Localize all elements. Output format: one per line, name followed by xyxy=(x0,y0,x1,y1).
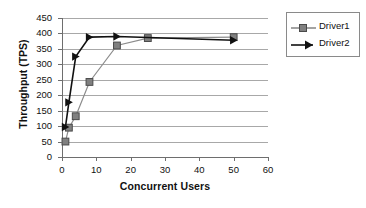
plot-area xyxy=(62,18,268,157)
x-tick-label: 30 xyxy=(153,164,177,175)
y-tick-mark xyxy=(58,111,62,112)
x-tick-mark xyxy=(165,157,166,161)
data-point-marker-triangle xyxy=(86,33,94,41)
chart-legend: Driver1 Driver2 xyxy=(286,12,360,57)
legend-marker-triangle-icon xyxy=(291,37,316,49)
y-tick-label: 100 xyxy=(0,120,52,131)
y-tick-mark xyxy=(58,126,62,127)
x-tick-mark xyxy=(199,157,200,161)
y-tick-mark xyxy=(58,64,62,65)
x-tick-mark xyxy=(268,157,269,161)
legend-label-driver1: Driver1 xyxy=(319,20,350,31)
y-tick-label: 300 xyxy=(0,58,52,69)
y-tick-label: 50 xyxy=(0,136,52,147)
y-tick-label: 350 xyxy=(0,43,52,54)
x-tick-mark xyxy=(131,157,132,161)
series-line-driver1 xyxy=(65,37,233,141)
data-point-marker-square xyxy=(86,79,93,86)
x-tick-label: 50 xyxy=(222,164,246,175)
data-point-marker-square xyxy=(62,138,69,145)
y-tick-mark xyxy=(58,80,62,81)
y-tick-mark xyxy=(58,142,62,143)
x-tick-label: 20 xyxy=(119,164,143,175)
data-point-marker-square xyxy=(114,42,121,49)
x-axis-title: Concurrent Users xyxy=(62,180,268,192)
x-tick-label: 60 xyxy=(256,164,280,175)
legend-item-driver1: Driver1 xyxy=(291,17,356,34)
y-tick-label: 0 xyxy=(0,151,52,162)
series-layer xyxy=(62,18,268,158)
x-tick-label: 40 xyxy=(187,164,211,175)
data-point-marker-square xyxy=(72,113,79,120)
y-tick-mark xyxy=(58,95,62,96)
data-point-marker-triangle xyxy=(113,32,121,40)
legend-item-driver2: Driver2 xyxy=(291,34,356,51)
y-tick-label: 450 xyxy=(0,12,52,23)
x-tick-mark xyxy=(96,157,97,161)
x-tick-mark xyxy=(62,157,63,161)
y-tick-label: 200 xyxy=(0,89,52,100)
legend-marker-square-icon xyxy=(291,20,316,32)
x-tick-mark xyxy=(234,157,235,161)
legend-label-driver2: Driver2 xyxy=(319,37,350,48)
chart-figure: Throughput (TPS) 05010015020025030035040… xyxy=(0,0,366,208)
y-tick-label: 400 xyxy=(0,27,52,38)
y-tick-mark xyxy=(58,18,62,19)
y-tick-mark xyxy=(58,33,62,34)
x-tick-label: 10 xyxy=(84,164,108,175)
y-tick-label: 250 xyxy=(0,74,52,85)
x-tick-label: 0 xyxy=(50,164,74,175)
y-tick-label: 150 xyxy=(0,105,52,116)
y-tick-mark xyxy=(58,49,62,50)
